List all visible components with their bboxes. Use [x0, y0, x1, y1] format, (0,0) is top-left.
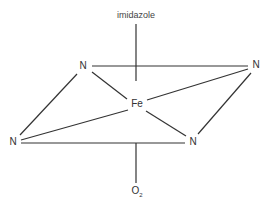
fe-n-bottom-left-bond: [21, 110, 128, 140]
fe-n-top-left-bond: [92, 72, 127, 99]
nitrogen-bottom-left: N: [9, 137, 16, 147]
fe-n-bottom-right-bond: [146, 111, 186, 136]
oxygen-label: O2: [131, 186, 142, 198]
iron-label: Fe: [131, 99, 143, 109]
oxygen-subscript: 2: [139, 192, 142, 198]
nitrogen-top-right: N: [252, 60, 259, 70]
fe-n-top-right-bond: [147, 69, 248, 100]
nitrogen-top-left: N: [79, 61, 86, 71]
plane-edge-left: [20, 74, 77, 135]
imidazole-label: imidazole: [117, 11, 155, 20]
oxygen-symbol: O: [131, 185, 139, 196]
nitrogen-bottom-right: N: [189, 137, 196, 147]
